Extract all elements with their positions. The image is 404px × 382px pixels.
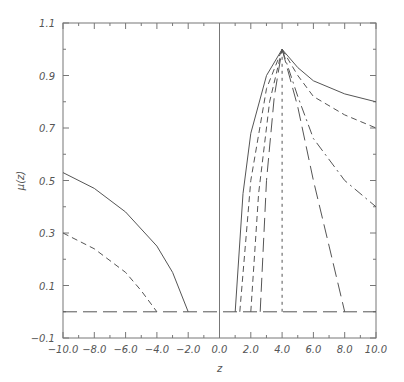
series-decay-long-dash (282, 49, 345, 312)
x-tick-label: 10.0 (365, 344, 387, 355)
y-tick-label: 1.1 (39, 18, 55, 29)
series-decay-solid (282, 49, 376, 102)
series-rise-dash-3 (260, 49, 282, 312)
x-tick-label: −6.0 (113, 344, 137, 355)
y-tick-label: 0.7 (39, 123, 56, 134)
x-tick-label: 0.0 (212, 344, 228, 355)
y-axis-label: μ(z) (15, 171, 26, 191)
x-tick-label: 4.0 (274, 344, 290, 355)
y-tick-label: 0.5 (39, 176, 55, 187)
y-tick-label: 0.3 (39, 228, 55, 239)
x-axis-label: z (216, 363, 223, 374)
y-tick-label: −0.1 (31, 333, 55, 344)
x-tick-label: 8.0 (337, 344, 353, 355)
x-tick-label: −10.0 (48, 344, 79, 355)
series-decay-dash-dot (282, 49, 376, 207)
series-left-dashed (63, 233, 157, 312)
series-rise-solid (235, 49, 282, 312)
x-tick-label: −4.0 (145, 344, 169, 355)
x-tick-label: −8.0 (82, 344, 106, 355)
x-tick-label: 6.0 (305, 344, 321, 355)
series-decay-dashed (282, 49, 376, 128)
y-tick-label: 0.9 (39, 71, 55, 82)
chart-plot: −10.0−8.0−6.0−4.0−2.00.02.04.06.08.010.0… (0, 0, 404, 382)
x-tick-label: 2.0 (243, 344, 259, 355)
y-tick-label: 0.1 (39, 281, 55, 292)
x-tick-label: −2.0 (176, 344, 200, 355)
